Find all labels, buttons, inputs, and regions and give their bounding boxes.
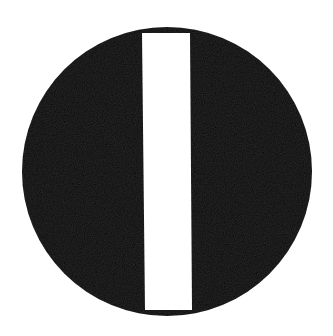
disc-with-bar-icon <box>0 0 333 336</box>
symbol-canvas: circle with vertical white bar <box>0 0 333 336</box>
white-vertical-bar <box>142 33 192 310</box>
